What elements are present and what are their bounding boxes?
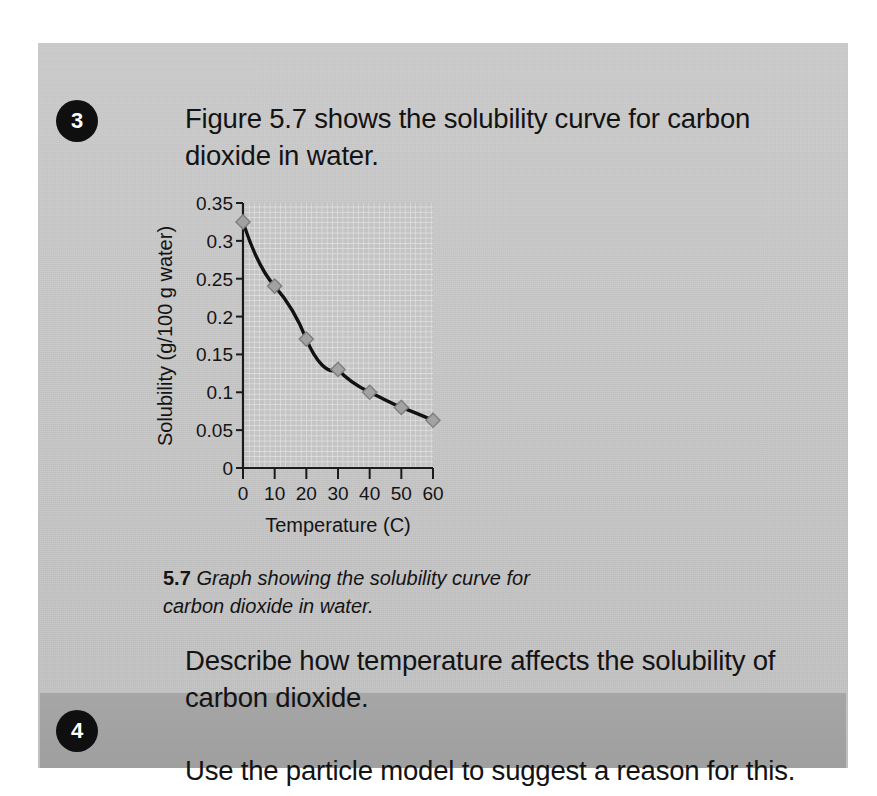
y-tick-label: 0.05 xyxy=(196,420,233,441)
x-tick-label: 60 xyxy=(422,483,443,504)
y-tick-label: 0.35 xyxy=(196,193,233,214)
y-axis-title: Solubility (g/100 g water) xyxy=(154,226,176,446)
page-canvas: 3 Figure 5.7 shows the solubility curve … xyxy=(0,0,877,796)
x-axis-ticks xyxy=(243,468,433,479)
figure-caption-text: Graph showing the solubility curve for c… xyxy=(163,567,530,617)
question-3-number: 3 xyxy=(71,110,83,132)
x-axis-tick-labels: 0 10 20 30 40 50 60 xyxy=(238,483,444,504)
y-tick-label: 0.3 xyxy=(207,231,233,252)
figure-5-7-chart: 0.35 0.3 0.25 0.2 0.15 0.1 0.05 0 xyxy=(150,191,490,551)
figure-caption-number: 5.7 xyxy=(163,567,191,589)
y-tick-label: 0 xyxy=(222,458,233,479)
x-tick-label: 0 xyxy=(238,483,249,504)
x-axis-title: Temperature (C) xyxy=(265,514,411,536)
question-4-text: Use the particle model to suggest a reas… xyxy=(185,753,825,790)
y-tick-label: 0.2 xyxy=(207,307,233,328)
y-tick-label: 0.1 xyxy=(207,382,233,403)
y-tick-label: 0.15 xyxy=(196,344,233,365)
question-4-number: 4 xyxy=(71,720,83,742)
y-axis-tick-labels: 0.35 0.3 0.25 0.2 0.15 0.1 0.05 0 xyxy=(196,193,233,479)
content-panel: 3 Figure 5.7 shows the solubility curve … xyxy=(38,43,848,768)
figure-caption: 5.7 Graph showing the solubility curve f… xyxy=(163,564,583,621)
x-tick-label: 20 xyxy=(296,483,317,504)
x-tick-label: 10 xyxy=(264,483,285,504)
question-4-number-badge: 4 xyxy=(56,710,98,752)
plot-area-gridlines xyxy=(243,203,433,468)
question-3-text: Figure 5.7 shows the solubility curve fo… xyxy=(185,101,785,174)
x-tick-label: 40 xyxy=(359,483,380,504)
question-3-number-badge: 3 xyxy=(56,100,98,142)
question-3b-text: Describe how temperature affects the sol… xyxy=(185,643,805,716)
y-tick-label: 0.25 xyxy=(196,269,233,290)
solubility-curve-svg: 0.35 0.3 0.25 0.2 0.15 0.1 0.05 0 xyxy=(150,191,490,551)
x-tick-label: 30 xyxy=(327,483,348,504)
x-tick-label: 50 xyxy=(391,483,412,504)
